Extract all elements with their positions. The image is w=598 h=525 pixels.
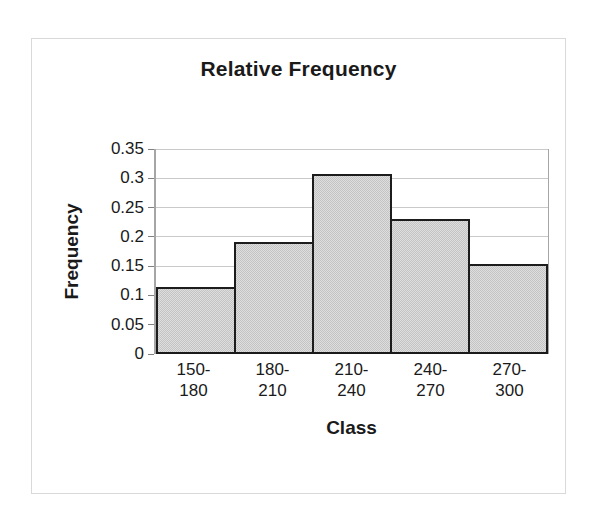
chart-frame: Relative Frequency Frequency 0.350.30.25… (31, 38, 566, 494)
y-axis-tick-label: 0.25 (111, 198, 144, 217)
y-axis-tick: 0.3 (120, 168, 154, 188)
y-axis-tick-mark (148, 178, 154, 179)
y-axis-tick-label: 0.35 (111, 139, 144, 158)
y-axis-tick-mark (148, 324, 154, 325)
y-axis-tick-label: 0.1 (120, 285, 144, 304)
x-axis-label-line: 180 (154, 380, 233, 401)
x-axis-label-line: 240- (391, 359, 470, 380)
x-axis-tick-labels: 150-180180-210210-240240-270270-300 (154, 359, 549, 401)
y-axis-tick-mark (148, 266, 154, 267)
y-axis-tick: 0.15 (111, 256, 154, 276)
y-axis-tick: 0.2 (120, 227, 154, 247)
y-axis-tick: 0.1 (120, 285, 154, 305)
x-axis-label-270-300: 270-300 (470, 359, 549, 401)
y-axis-tick-mark (148, 354, 154, 355)
x-axis-label-210-240: 210-240 (312, 359, 391, 401)
y-axis-tick-mark (148, 236, 154, 237)
y-axis-ticks: 0.350.30.250.20.150.10.050 (154, 149, 549, 354)
x-axis-label-line: 180- (233, 359, 312, 380)
y-axis-tick: 0 (135, 344, 154, 364)
x-axis-label-line: 270 (391, 380, 470, 401)
y-axis-tick-mark (148, 207, 154, 208)
x-axis-label-150-180: 150-180 (154, 359, 233, 401)
x-axis-label-line: 240 (312, 380, 391, 401)
y-axis-tick-mark (148, 149, 154, 150)
y-axis-tick-label: 0.3 (120, 168, 144, 187)
y-axis-tick-label: 0.2 (120, 227, 144, 246)
x-axis-label-240-270: 240-270 (391, 359, 470, 401)
y-axis-tick: 0.05 (111, 315, 154, 335)
y-axis-tick-label: 0.15 (111, 256, 144, 275)
x-axis-label-line: 210 (233, 380, 312, 401)
y-axis-tick-mark (148, 295, 154, 296)
chart-title: Relative Frequency (32, 57, 565, 81)
y-axis-tick-label: 0.05 (111, 315, 144, 334)
y-axis-tick: 0.25 (111, 198, 154, 218)
y-axis-tick: 0.35 (111, 139, 154, 159)
x-axis-label-line: 300 (470, 380, 549, 401)
x-axis-label-line: 210- (312, 359, 391, 380)
y-axis-title: Frequency (58, 149, 86, 354)
x-axis-label-line: 270- (470, 359, 549, 380)
y-axis-tick-label: 0 (135, 344, 144, 363)
plot-area-wrapper: 0.350.30.250.20.150.10.050 (154, 149, 549, 354)
x-axis-label-180-210: 180-210 (233, 359, 312, 401)
x-axis-title: Class (154, 417, 549, 439)
x-axis-label-line: 150- (154, 359, 233, 380)
